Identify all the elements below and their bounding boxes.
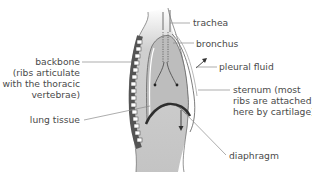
label-trachea: trachea — [193, 17, 228, 28]
label-backbone: backbone — [0, 56, 80, 67]
label-sternum-1: sternum (most — [233, 84, 301, 95]
label-sternum-3: here by cartilage) — [233, 106, 312, 117]
label-bronchus: bronchus — [196, 38, 238, 49]
label-backbone-note-3: vertebrae) — [0, 89, 80, 100]
alveolus — [154, 84, 157, 87]
label-backbone-note-1: (ribs articulate — [0, 67, 80, 78]
label-backbone-note-2: with the thoracic — [0, 78, 80, 89]
outward-arrow-icon — [196, 58, 207, 68]
label-pleural-fluid: pleural fluid — [219, 61, 274, 72]
label-diaphragm: diaphragm — [229, 150, 279, 161]
label-lung-tissue: lung tissue — [0, 114, 80, 125]
label-sternum-2: ribs are attached — [233, 95, 311, 106]
